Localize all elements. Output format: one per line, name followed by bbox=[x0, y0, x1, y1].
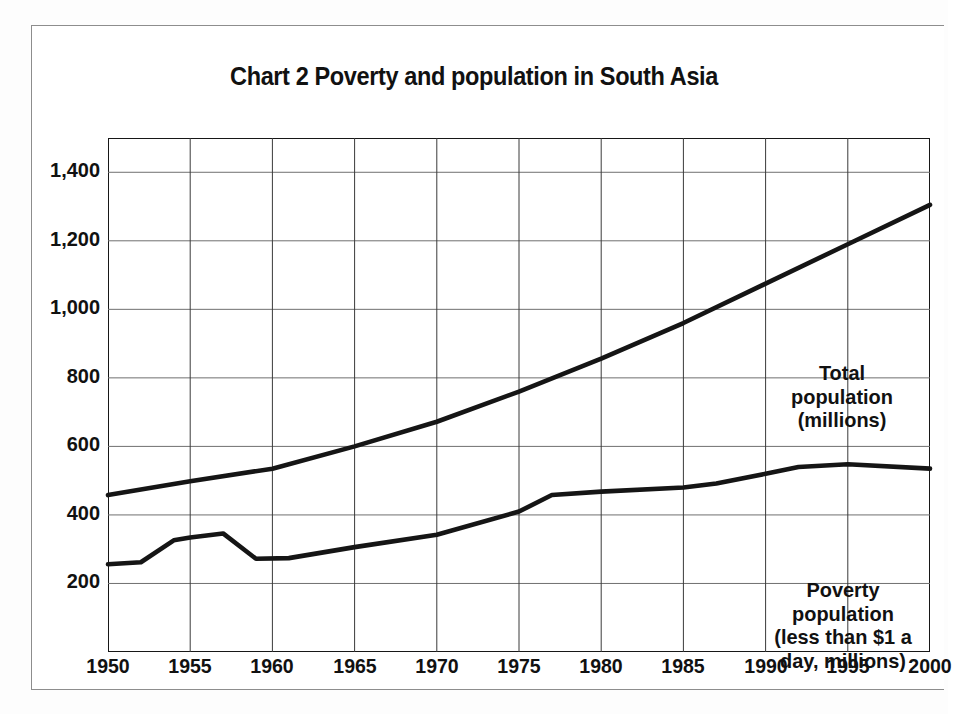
chart-series bbox=[108, 138, 930, 652]
y-tick-label: 800 bbox=[26, 364, 100, 388]
plot-wrapper: Totalpopulation(millions) Povertypopulat… bbox=[108, 138, 930, 652]
x-tick-label: 1955 bbox=[153, 654, 227, 678]
x-tick-label: 2000 bbox=[893, 654, 956, 678]
series-total-population bbox=[108, 205, 930, 495]
x-tick-label: 1960 bbox=[235, 654, 309, 678]
x-tick-label: 1995 bbox=[811, 654, 885, 678]
x-tick-label: 1975 bbox=[482, 654, 556, 678]
y-tick-label: 200 bbox=[26, 569, 100, 593]
y-tick-label: 1,200 bbox=[26, 227, 100, 251]
x-tick-label: 1980 bbox=[564, 654, 638, 678]
y-tick-label: 1,400 bbox=[26, 158, 100, 182]
page-title: Chart 2 Poverty and population in South … bbox=[28, 62, 919, 91]
x-tick-label: 1990 bbox=[728, 654, 802, 678]
x-tick-label: 1950 bbox=[71, 654, 145, 678]
x-axis-labels: 1950195519601965197019751980198519901995… bbox=[108, 654, 930, 684]
y-tick-label: 400 bbox=[26, 501, 100, 525]
x-tick-label: 1965 bbox=[317, 654, 391, 678]
series-poverty-population bbox=[108, 464, 930, 564]
x-tick-label: 1985 bbox=[646, 654, 720, 678]
y-axis-labels: 1,4001,2001,000800600400200 bbox=[22, 138, 100, 652]
x-tick-label: 1970 bbox=[400, 654, 474, 678]
y-tick-label: 1,000 bbox=[26, 295, 100, 319]
y-tick-label: 600 bbox=[26, 432, 100, 456]
